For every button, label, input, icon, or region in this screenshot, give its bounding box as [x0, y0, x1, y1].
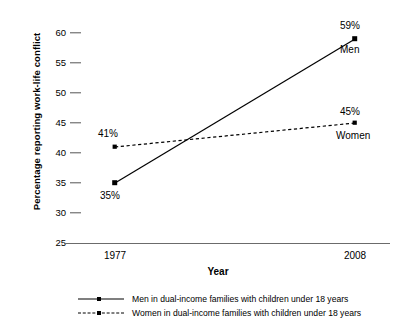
y-tick-label-50: 50 — [40, 88, 66, 98]
y-tick-mark-35 — [70, 182, 81, 183]
legend-label-women: Women in dual-income families with child… — [132, 308, 361, 318]
legend-item-men: Men in dual-income families with childre… — [78, 292, 361, 306]
series-label-women: Women — [336, 130, 370, 141]
legend-item-women: Women in dual-income families with child… — [78, 306, 361, 320]
x-axis-title: Year — [183, 266, 253, 277]
y-tick-label-45: 45 — [40, 118, 66, 128]
series-line-women — [115, 123, 355, 147]
y-tick-label-40: 40 — [40, 148, 66, 158]
x-axis-line — [64, 243, 390, 244]
x-tick-label-2008: 2008 — [320, 250, 390, 261]
x-tick-label-1977: 1977 — [80, 250, 150, 261]
point-label-women-1977: 41% — [98, 128, 118, 139]
y-tick-label-55: 55 — [40, 58, 66, 68]
y-tick-mark-60 — [70, 32, 81, 33]
series-line-men — [115, 39, 355, 183]
data-point-women-1977 — [113, 145, 117, 149]
legend-label-men: Men in dual-income families with childre… — [132, 294, 348, 304]
line-chart-figure: Percentage reporting work-life conflict … — [0, 0, 420, 332]
y-tick-mark-55 — [70, 62, 81, 63]
y-tick-mark-45 — [70, 122, 81, 123]
y-tick-label-25: 25 — [40, 238, 66, 248]
series-label-men: Men — [340, 44, 359, 55]
y-tick-label-60: 60 — [40, 28, 66, 38]
legend-key-men-icon — [78, 293, 124, 305]
point-label-women-2008: 45% — [340, 106, 360, 117]
legend-key-women-icon — [78, 307, 124, 319]
y-tick-label-30: 30 — [40, 208, 66, 218]
data-point-women-2008 — [353, 121, 357, 125]
point-label-men-2008: 59% — [340, 20, 360, 31]
y-tick-mark-50 — [70, 92, 81, 93]
data-point-men-1977 — [112, 180, 117, 185]
y-tick-label-35: 35 — [40, 178, 66, 188]
y-tick-mark-40 — [70, 152, 81, 153]
chart-legend: Men in dual-income families with childre… — [78, 292, 361, 320]
y-tick-mark-30 — [70, 212, 81, 213]
point-label-men-1977: 35% — [100, 190, 120, 201]
data-point-men-2008 — [352, 36, 357, 41]
